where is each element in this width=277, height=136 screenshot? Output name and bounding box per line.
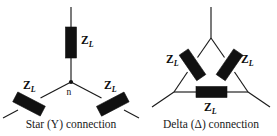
star-left-impedance-label: ZL [23, 79, 36, 94]
delta-right-side-lower-wire [235, 72, 249, 92]
delta-right-side-upper-wire [211, 38, 225, 58]
delta-bottom-impedance-label-sub: L [211, 107, 217, 116]
star-left-impedance-label-sub: L [30, 85, 36, 94]
delta-left-impedance-group [179, 49, 206, 81]
star-right-outer-lead-wire [124, 110, 139, 118]
three-phase-load-connections-figure: ZL ZL ZL n Star (Y) connection [0, 0, 277, 136]
delta-right-impedance-group [216, 49, 243, 81]
star-neutral-label: n [67, 87, 72, 97]
star-top-impedance-label-sub: L [88, 40, 94, 49]
figure-canvas: ZL ZL ZL n Star (Y) connection [0, 0, 277, 136]
delta-left-impedance-label: ZL [166, 53, 179, 68]
delta-right-impedance-label: ZL [241, 53, 254, 68]
delta-right-impedance [216, 49, 243, 81]
star-right-impedance-group [97, 92, 130, 116]
delta-connection-diagram: ZL ZL ZL Delta (Δ) connection [152, 7, 270, 131]
delta-right-impedance-label-sub: L [248, 59, 254, 68]
star-top-impedance [66, 27, 77, 58]
star-right-inner-wire [71, 82, 102, 98]
delta-bottom-right-lead-wire [248, 92, 270, 107]
star-right-impedance-label: ZL [104, 79, 117, 94]
star-top-impedance-label: ZL [81, 34, 94, 49]
delta-left-side-lower-wire [174, 72, 188, 92]
star-neutral-node-dot [69, 80, 73, 84]
star-left-impedance-group [13, 92, 46, 116]
delta-bottom-impedance [196, 87, 227, 98]
star-caption: Star (Y) connection [26, 118, 117, 131]
star-left-impedance [13, 92, 46, 116]
delta-left-impedance [179, 49, 206, 81]
delta-left-side-upper-wire [198, 38, 212, 58]
star-right-impedance [97, 92, 130, 116]
delta-left-impedance-label-sub: L [173, 59, 179, 68]
delta-caption: Delta (Δ) connection [163, 118, 259, 131]
delta-bottom-impedance-label: ZL [204, 101, 217, 116]
star-right-impedance-label-sub: L [111, 85, 117, 94]
delta-bottom-left-lead-wire [152, 92, 174, 107]
star-left-outer-lead-wire [3, 110, 18, 118]
star-connection-diagram: ZL ZL ZL n Star (Y) connection [3, 7, 139, 131]
